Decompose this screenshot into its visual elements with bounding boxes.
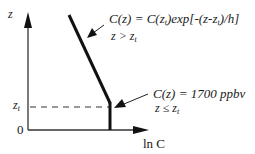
upper-formula-prefix: C(z) = C(z (109, 11, 165, 26)
lower-condition: z ≤ zt (155, 102, 179, 116)
lower-formula-text: C(z) = 1700 ppbv (153, 86, 245, 101)
lower-condition-prefix: z ≤ z (155, 101, 177, 115)
y-axis-arrow-icon (24, 12, 32, 28)
upper-condition: z > zt (111, 30, 137, 44)
lower-pointer-line (124, 94, 148, 104)
upper-condition-sub: t (134, 35, 136, 44)
upper-formula-suffix: )/h] (220, 11, 240, 26)
upper-formula-mid: )exp[-(z-z (167, 11, 218, 26)
upper-formula: C(z) = C(zt)exp[-(z-zt)/h] (109, 12, 239, 27)
upper-pointer-arrow-icon (87, 28, 97, 38)
lower-formula: C(z) = 1700 ppbv (153, 87, 245, 100)
lower-condition-sub: t (177, 107, 179, 116)
lower-pointer-arrow-icon (114, 99, 126, 108)
zt-label-sub: t (18, 104, 20, 113)
x-axis-arrow-icon (133, 126, 149, 134)
profile-exponential-segment (69, 15, 110, 103)
zt-label: zt (13, 99, 20, 113)
y-axis-label: z (8, 8, 13, 20)
x-axis-label-text: ln C (143, 136, 165, 151)
x-axis-label: ln C (143, 137, 165, 150)
origin-label: 0 (17, 123, 24, 136)
upper-condition-prefix: z > z (111, 29, 134, 43)
